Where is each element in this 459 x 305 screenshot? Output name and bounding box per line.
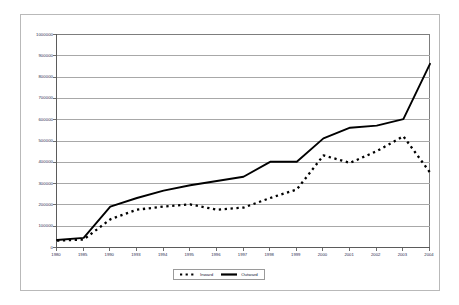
- x-axis-tick-mark: [429, 248, 430, 251]
- plot-area: [56, 34, 430, 248]
- chart-figure: 1000000900000800000700000600000500000400…: [20, 14, 440, 291]
- chart-legend: Inward Outward: [173, 269, 265, 280]
- legend-entry-outward: Outward: [220, 272, 258, 277]
- y-axis-tick-label: 400000: [38, 159, 53, 164]
- x-axis-tick-label: 1994: [158, 252, 167, 257]
- y-axis-tick-label: 100000: [38, 223, 53, 228]
- x-axis-tick-label: 1996: [211, 252, 220, 257]
- y-axis-tick-label: 800000: [38, 74, 53, 79]
- y-axis-tick-label: 300000: [38, 181, 53, 186]
- x-axis-tick-mark: [296, 248, 297, 251]
- x-axis-tick-label: 1980: [51, 252, 60, 257]
- dashed-line-marker: [179, 272, 197, 277]
- legend-label-inward: Inward: [200, 272, 213, 277]
- x-axis-tick-label: 2000: [318, 252, 327, 257]
- x-axis-tick-mark: [376, 248, 377, 251]
- x-axis-tick-label: 1998: [264, 252, 273, 257]
- x-axis-tick-label: 1985: [78, 252, 87, 257]
- x-axis-tick-label: 2003: [398, 252, 407, 257]
- series-line-inward: [57, 136, 430, 240]
- x-axis-tick-label: 1997: [238, 252, 247, 257]
- y-axis-tick-label: 500000: [38, 138, 53, 143]
- x-axis-tick-label: 1990: [105, 252, 114, 257]
- x-axis-tick-mark: [269, 248, 270, 251]
- y-axis-tick-label: 200000: [38, 202, 53, 207]
- x-axis-tick-mark: [189, 248, 190, 251]
- x-axis-tick-mark: [56, 248, 57, 251]
- x-axis-tick-label: 1995: [185, 252, 194, 257]
- x-axis-tick-label: 1999: [291, 252, 300, 257]
- x-axis-tick-label: 2002: [371, 252, 380, 257]
- x-axis-tick-mark: [402, 248, 403, 251]
- series-lines: [57, 34, 430, 247]
- y-axis-tick-label: 700000: [38, 95, 53, 100]
- x-axis-tick-mark: [349, 248, 350, 251]
- x-axis-tick-label: 1993: [131, 252, 140, 257]
- x-axis-tick-label: 2001: [344, 252, 353, 257]
- x-axis-tick-mark: [243, 248, 244, 251]
- x-axis-tick-mark: [216, 248, 217, 251]
- x-axis-tick-mark: [109, 248, 110, 251]
- x-axis-tick-mark: [136, 248, 137, 251]
- y-axis-tick-label: 1000000: [36, 32, 53, 37]
- y-axis-tick-label: 900000: [38, 53, 53, 58]
- legend-entry-inward: Inward: [179, 272, 213, 277]
- y-axis-tick-label: 600000: [38, 117, 53, 122]
- x-axis-tick-label: 2004: [424, 252, 433, 257]
- x-axis-tick-mark: [83, 248, 84, 251]
- solid-line-marker: [220, 272, 238, 277]
- y-axis-tick-labels: 1000000900000800000700000600000500000400…: [21, 15, 53, 292]
- x-axis-tick-mark: [322, 248, 323, 251]
- x-axis-tick-mark: [163, 248, 164, 251]
- legend-label-outward: Outward: [241, 272, 258, 277]
